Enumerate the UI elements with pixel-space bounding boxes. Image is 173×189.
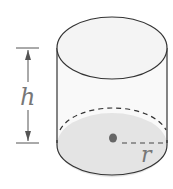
center-dot (109, 134, 117, 143)
cylinder-diagram: h r (0, 0, 173, 189)
arrow-up-icon (25, 50, 31, 60)
radius-label: r (141, 142, 153, 167)
arrow-down-icon (25, 131, 31, 141)
height-label: h (20, 83, 35, 111)
cylinder-top (57, 17, 167, 79)
